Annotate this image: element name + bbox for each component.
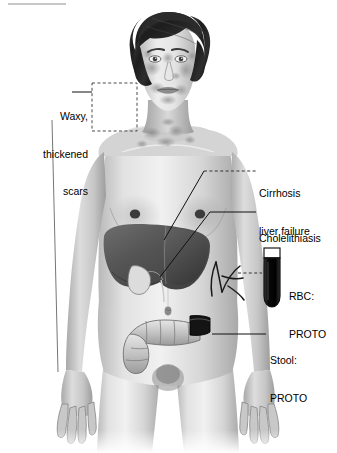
callout-line: Cholelithiasis xyxy=(259,232,337,245)
callout-stool-proto: Stool: PROTO xyxy=(270,329,332,429)
callout-line: RBC: xyxy=(289,290,337,303)
head-group xyxy=(130,12,211,111)
callout-waxy-thickened-scars: Waxy, thickened scars xyxy=(10,85,88,223)
callout-line: Cirrhosis xyxy=(259,187,337,200)
face-scar-highlight-box xyxy=(92,83,137,131)
stool-segment xyxy=(190,316,210,336)
callout-line: scars xyxy=(10,185,88,198)
callout-line: Stool: xyxy=(270,354,332,367)
callout-line: thickened xyxy=(10,148,88,161)
callout-line: PROTO xyxy=(270,392,332,405)
callout-line: Waxy, xyxy=(10,110,88,123)
anatomical-figure: Waxy, thickened scars Cirrhosis liver fa… xyxy=(0,0,337,453)
callout-cholelithiasis: Cholelithiasis xyxy=(259,207,337,270)
